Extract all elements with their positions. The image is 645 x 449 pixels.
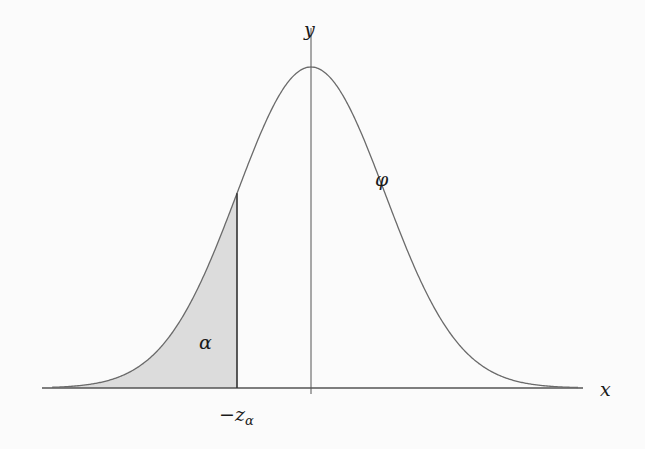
cutoff-label: −zα (219, 405, 254, 427)
density-curve-phi (52, 67, 578, 388)
y-axis-label: y (304, 20, 315, 39)
shaded-tail-area (52, 193, 237, 388)
area-label-alpha: α (199, 333, 212, 352)
x-axis-label: x (600, 380, 611, 399)
cutoff-label-subscript: α (245, 413, 254, 428)
normal-distribution-diagram: y x φ α −zα (0, 0, 645, 449)
curve-label-phi: φ (375, 170, 388, 189)
plot-canvas (0, 0, 645, 449)
cutoff-label-main: −z (219, 403, 245, 425)
